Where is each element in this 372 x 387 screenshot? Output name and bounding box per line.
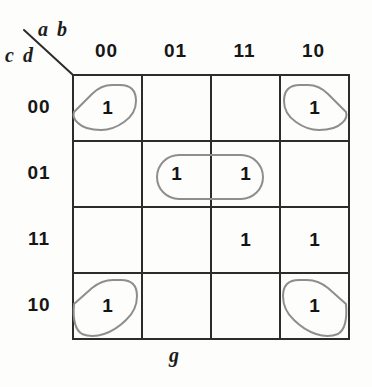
cell-value: 1 [309, 229, 320, 251]
kmap-cell-r0c2[interactable] [212, 76, 281, 142]
kmap-cell-r3c1[interactable] [143, 274, 212, 340]
kmap-cell-r2c0[interactable] [74, 208, 143, 274]
cell-value: 1 [240, 229, 251, 251]
column-header-0: 00 [72, 40, 141, 62]
kmap-cell-r2c1[interactable] [143, 208, 212, 274]
column-header-3: 10 [279, 40, 348, 62]
cell-value: 1 [102, 295, 113, 317]
kmap-cell-r1c1[interactable]: 1 [143, 142, 212, 208]
figure-caption: g [0, 344, 348, 367]
cell-value: 1 [240, 163, 251, 185]
kmap-cell-r3c2[interactable] [212, 274, 281, 340]
row-header-3: 10 [14, 272, 64, 338]
kmap-grid: 1 1 1 1 1 1 1 1 [72, 74, 350, 340]
row-axis-label: c d [5, 44, 35, 67]
column-axis-label: a b [38, 18, 69, 41]
kmap-cell-r0c1[interactable] [143, 76, 212, 142]
kmap-cell-r2c2[interactable]: 1 [212, 208, 281, 274]
cell-value: 1 [171, 163, 182, 185]
kmap-cell-r1c3[interactable] [281, 142, 350, 208]
kmap-cell-r2c3[interactable]: 1 [281, 208, 350, 274]
row-header-0: 00 [14, 74, 64, 140]
row-header-1: 01 [14, 140, 64, 206]
karnaugh-map-figure: a b c d 00 01 11 10 00 01 11 10 1 1 1 1 … [0, 0, 372, 387]
cell-value: 1 [309, 97, 320, 119]
row-header-2: 11 [14, 206, 64, 272]
kmap-cell-r3c0[interactable]: 1 [74, 274, 143, 340]
kmap-cell-r0c3[interactable]: 1 [281, 76, 350, 142]
column-header-1: 01 [141, 40, 210, 62]
kmap-cell-r3c3[interactable]: 1 [281, 274, 350, 340]
column-header-2: 11 [210, 40, 279, 62]
kmap-cell-r1c2[interactable]: 1 [212, 142, 281, 208]
kmap-cell-r0c0[interactable]: 1 [74, 76, 143, 142]
cell-value: 1 [102, 97, 113, 119]
kmap-cell-r1c0[interactable] [74, 142, 143, 208]
cell-value: 1 [309, 295, 320, 317]
